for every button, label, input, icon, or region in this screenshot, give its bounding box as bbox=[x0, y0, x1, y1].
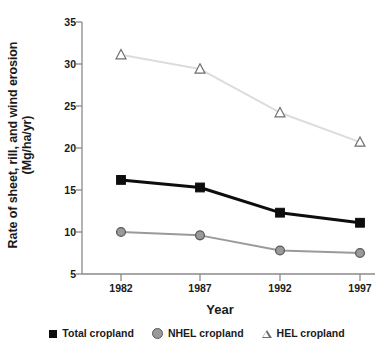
legend-label-total-cropland: Total cropland bbox=[62, 328, 134, 339]
axis-lines bbox=[82, 22, 375, 274]
legend-item-hel-cropland: HEL cropland bbox=[262, 328, 345, 339]
data-point-marker bbox=[276, 208, 285, 217]
series-nhel-cropland bbox=[117, 228, 365, 258]
legend-item-total-cropland: Total cropland bbox=[49, 328, 134, 339]
legend-label-nhel-cropland: NHEL cropland bbox=[168, 328, 244, 339]
filled-square-marker-icon bbox=[49, 330, 57, 338]
series-hel-cropland bbox=[116, 50, 365, 147]
erosion-line-chart: Rate of sheet, rill, and wind erosion (M… bbox=[0, 0, 391, 358]
filled-circle-marker-icon bbox=[152, 328, 163, 339]
data-point-marker bbox=[116, 50, 126, 59]
data-point-marker bbox=[356, 249, 365, 258]
x-axis-ticks bbox=[121, 274, 360, 281]
data-point-marker bbox=[356, 218, 365, 227]
x-tick-label-1987: 1987 bbox=[177, 282, 223, 294]
data-point-marker bbox=[276, 246, 285, 255]
y-axis-ticks bbox=[76, 22, 82, 274]
series-total-cropland bbox=[117, 176, 365, 228]
data-point-marker bbox=[196, 231, 205, 240]
x-tick-label-1982: 1982 bbox=[98, 282, 144, 294]
data-point-marker bbox=[117, 228, 126, 237]
data-point-marker bbox=[196, 183, 205, 192]
data-point-marker bbox=[117, 176, 126, 185]
legend-item-nhel-cropland: NHEL cropland bbox=[152, 328, 244, 339]
x-tick-label-1992: 1992 bbox=[257, 282, 303, 294]
x-tick-label-1997: 1997 bbox=[337, 282, 383, 294]
data-point-marker bbox=[275, 108, 285, 117]
x-axis-title: Year bbox=[70, 302, 370, 317]
data-series-layer bbox=[116, 50, 365, 258]
legend-label-hel-cropland: HEL cropland bbox=[277, 328, 345, 339]
chart-legend: Total cropland NHEL cropland HEL croplan… bbox=[22, 328, 372, 339]
open-triangle-marker-icon bbox=[262, 330, 272, 338]
